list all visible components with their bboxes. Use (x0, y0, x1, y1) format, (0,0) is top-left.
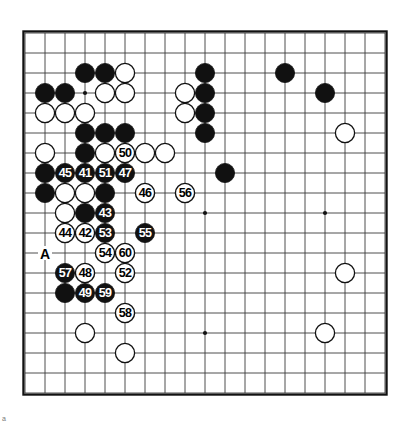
black-stone (215, 163, 234, 182)
stone-number-label: 49 (79, 286, 92, 300)
stone-number-label: 58 (119, 306, 132, 320)
numbered-stone-51: 51 (95, 163, 114, 182)
stone-number-label: 41 (79, 166, 92, 180)
white-stone (75, 183, 94, 202)
stone-number-label: 48 (79, 266, 92, 280)
go-board-diagram: 4541514750465643444253555460574852495958… (0, 0, 408, 423)
black-stone (275, 63, 294, 82)
white-stone (115, 343, 134, 362)
black-stone (195, 83, 214, 102)
numbered-stone-42: 42 (75, 223, 94, 242)
white-stone (335, 123, 354, 142)
numbered-stone-49: 49 (75, 283, 94, 302)
point-label-A: A (40, 246, 50, 262)
black-stone (195, 63, 214, 82)
black-stone (55, 283, 74, 302)
white-stone (95, 143, 114, 162)
white-stone (35, 103, 54, 122)
black-stone (55, 83, 74, 102)
black-stone (35, 163, 54, 182)
stone-number-label: 60 (119, 246, 132, 260)
black-stone (75, 123, 94, 142)
black-stone (35, 183, 54, 202)
white-stone (55, 183, 74, 202)
black-stone (35, 83, 54, 102)
edge-mark: a (2, 415, 6, 422)
white-stone (175, 103, 194, 122)
stone-number-label: 55 (139, 226, 152, 240)
black-stone (75, 203, 94, 222)
numbered-stone-60: 60 (115, 243, 134, 262)
stone-number-label: 46 (139, 186, 152, 200)
numbered-stone-52: 52 (115, 263, 134, 282)
white-stone (175, 83, 194, 102)
white-stone (135, 143, 154, 162)
white-stone (315, 323, 334, 342)
stone-number-label: 47 (119, 166, 132, 180)
black-stone (75, 143, 94, 162)
black-stone (195, 123, 214, 142)
star-point (83, 91, 87, 95)
stone-number-label: 59 (99, 286, 112, 300)
goban-svg: 4541514750465643444253555460574852495958… (0, 0, 408, 423)
numbered-stone-45: 45 (55, 163, 74, 182)
black-stone (95, 183, 114, 202)
white-stone (55, 203, 74, 222)
numbered-stone-41: 41 (75, 163, 94, 182)
numbered-stone-54: 54 (95, 243, 114, 262)
stone-number-label: 54 (99, 246, 112, 260)
numbered-stone-44: 44 (55, 223, 74, 242)
black-stone (195, 103, 214, 122)
star-point (203, 331, 207, 335)
white-stone (35, 143, 54, 162)
point-labels: A (38, 246, 52, 262)
black-stone (115, 123, 134, 142)
stone-number-label: 52 (119, 266, 132, 280)
black-stone (95, 123, 114, 142)
numbered-stone-53: 53 (95, 223, 114, 242)
stone-number-label: 44 (59, 226, 72, 240)
star-point (323, 211, 327, 215)
white-stone (335, 263, 354, 282)
white-stone (75, 323, 94, 342)
numbered-stone-59: 59 (95, 283, 114, 302)
stone-number-label: 53 (99, 226, 112, 240)
black-stone (315, 83, 334, 102)
stone-number-label: 45 (59, 166, 72, 180)
numbered-stone-58: 58 (115, 303, 134, 322)
numbered-stone-47: 47 (115, 163, 134, 182)
numbered-stone-46: 46 (135, 183, 154, 202)
numbered-stone-57: 57 (55, 263, 74, 282)
star-point (203, 211, 207, 215)
numbered-stone-48: 48 (75, 263, 94, 282)
black-stone (75, 63, 94, 82)
numbered-stone-50: 50 (115, 143, 134, 162)
stone-number-label: 57 (59, 266, 72, 280)
numbered-stone-43: 43 (95, 203, 114, 222)
white-stone (55, 103, 74, 122)
stone-number-label: 43 (99, 206, 112, 220)
white-stone (155, 143, 174, 162)
stone-number-label: 50 (119, 146, 132, 160)
white-stone (95, 83, 114, 102)
white-stone (115, 63, 134, 82)
numbered-stone-55: 55 (135, 223, 154, 242)
white-stone (75, 103, 94, 122)
stone-number-label: 56 (179, 186, 192, 200)
stone-number-label: 42 (79, 226, 92, 240)
white-stone (115, 83, 134, 102)
black-stone (95, 63, 114, 82)
numbered-stone-56: 56 (175, 183, 194, 202)
stone-number-label: 51 (99, 166, 112, 180)
